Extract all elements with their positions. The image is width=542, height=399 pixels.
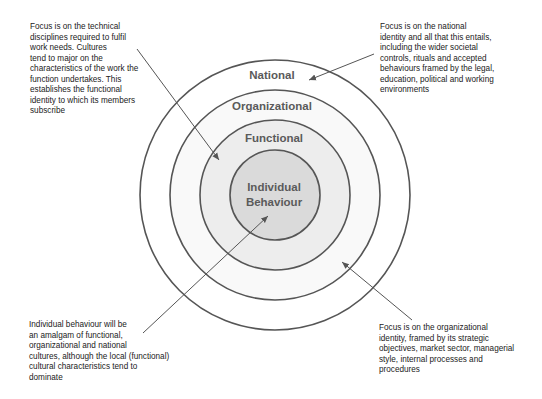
label-organizational: Organizational xyxy=(232,100,312,112)
label-national: National xyxy=(249,69,294,81)
label-individual-line1: Individual xyxy=(247,181,301,193)
annotation-organizational: Focus is on the organizational identity,… xyxy=(379,323,529,376)
annotation-functional: Focus is on the technical disciplines re… xyxy=(30,22,150,117)
annotation-individual: Individual behaviour will be an amalgam … xyxy=(29,320,189,383)
label-functional: Functional xyxy=(245,132,303,144)
label-individual-line2: Behaviour xyxy=(246,196,303,208)
annotation-national: Focus is on the national identity and al… xyxy=(380,22,530,96)
ring-individual xyxy=(230,150,320,240)
